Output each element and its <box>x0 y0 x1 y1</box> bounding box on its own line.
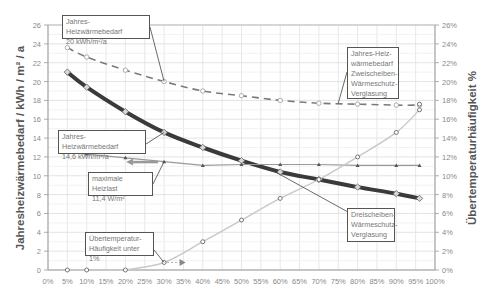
leader-line <box>153 162 164 184</box>
y2-tick-label: 18% <box>442 96 457 105</box>
x-tick-label: 40% <box>195 277 210 286</box>
annotation-line: 14,6 kWh/m²/a <box>62 152 142 162</box>
x-tick-label: 60% <box>273 277 288 286</box>
y-tick-label: 6 <box>37 209 41 218</box>
y-tick-label: 8 <box>37 191 41 200</box>
y2-tick-label: 14% <box>442 134 457 143</box>
x-tick-label: 35% <box>176 277 191 286</box>
annotation-line: Häufigkeit unter 1% <box>89 244 150 264</box>
y2-tick-label: 6% <box>442 209 453 218</box>
x-tick-label: 5% <box>62 277 73 286</box>
data-point-marker <box>201 89 205 93</box>
annotation-line: Übertemperatur- <box>89 234 150 244</box>
x-tick-labels: 0%5%10%15%20%25%30%35%40%45%50%55%60%65%… <box>43 277 445 286</box>
data-point-marker <box>201 240 205 244</box>
leader-line <box>338 72 347 103</box>
data-point-marker <box>317 178 321 182</box>
y2-tick-label: 0% <box>442 266 453 275</box>
y-tick-label: 4 <box>37 228 41 237</box>
y2-tick-label: 26% <box>442 21 457 30</box>
data-point-marker <box>394 103 398 107</box>
data-point-marker <box>418 102 422 106</box>
annotation-double-glazing: Jahres-Heiz- wärmebedarf Zweischeiben- W… <box>347 47 399 99</box>
data-point-marker <box>418 108 422 112</box>
y2-tick-labels: 0%2%4%6%8%10%12%14%16%18%20%22%24%26% <box>442 21 457 275</box>
y-tick-label: 0 <box>37 266 41 275</box>
annotation-line: Verglasung <box>351 89 395 99</box>
data-point-marker <box>123 68 127 72</box>
y-tick-label: 24 <box>33 40 41 49</box>
x-tick-label: 95% <box>408 277 423 286</box>
y-tick-label: 12 <box>33 153 41 162</box>
y-tick-label: 14 <box>33 134 41 143</box>
x-tick-label: 90% <box>389 277 404 286</box>
annotation-line: Jahres-Heizwärmebedarf <box>66 17 146 37</box>
y-tick-label: 20 <box>33 78 41 87</box>
x-tick-label: 70% <box>311 277 326 286</box>
y-tick-label: 18 <box>33 96 41 105</box>
data-point-marker <box>278 98 282 102</box>
y-tick-labels: 02468101214161820222426 <box>33 21 41 275</box>
x-tick-label: 50% <box>234 277 249 286</box>
data-point-marker <box>240 218 244 222</box>
annotation-line: Dreischeiben- <box>351 210 391 220</box>
x-tick-label: 85% <box>369 277 384 286</box>
annotation-line: Wärmeschutz- <box>351 220 391 230</box>
y-tick-label: 2 <box>37 247 41 256</box>
y2-tick-label: 10% <box>442 172 457 181</box>
data-point-marker <box>123 268 127 272</box>
y-tick-label: 10 <box>33 172 41 181</box>
y2-tick-label: 12% <box>442 153 457 162</box>
data-point-marker <box>85 55 89 59</box>
y2-tick-label: 4% <box>442 228 453 237</box>
data-point-marker <box>85 268 89 272</box>
data-point-marker <box>65 268 69 272</box>
data-point-marker <box>355 102 359 106</box>
y2-tick-label: 16% <box>442 115 457 124</box>
x-tick-label: 75% <box>331 277 346 286</box>
y-tick-label: 22 <box>33 59 41 68</box>
annotation-14-6-kwh: Jahres-Heizwärmebedarf 14,6 kWh/m²/a <box>58 130 146 154</box>
annotation-line: 20 kWh/m²/a <box>66 37 146 47</box>
x-tick-label: 80% <box>350 277 365 286</box>
annotation-line: 11,4 W/m² <box>92 194 149 204</box>
data-point-marker <box>394 130 398 134</box>
annotation-max-heating-load: maximale Heizlast 11,4 W/m² <box>88 172 153 196</box>
data-point-marker <box>317 101 321 105</box>
y2-axis-title: Übertemperaturhäufigkeit % <box>466 71 478 225</box>
x-tick-label: 45% <box>215 277 230 286</box>
annotation-line: Jahres-Heiz- <box>351 49 395 59</box>
y2-tick-label: 20% <box>442 78 457 87</box>
leader-line <box>150 27 164 82</box>
data-point-marker <box>278 196 282 200</box>
x-tick-label: 0% <box>43 277 54 286</box>
annotation-line: Jahres-Heizwärmebedarf <box>62 132 142 152</box>
x-tick-label: 20% <box>118 277 133 286</box>
y-tick-label: 26 <box>33 21 41 30</box>
y-axis-title: Jahresheizwärmebedarf / kWh / m² / a <box>14 45 26 250</box>
x-tick-label: 25% <box>137 277 152 286</box>
data-point-marker <box>239 93 243 97</box>
arrow-right-icon <box>180 259 186 266</box>
x-tick-label: 30% <box>157 277 172 286</box>
annotation-20-kwh: Jahres-Heizwärmebedarf 20 kWh/m²/a <box>62 15 150 39</box>
y2-tick-label: 24% <box>442 40 457 49</box>
annotation-line: wärmebedarf <box>351 59 395 69</box>
y2-tick-label: 2% <box>442 247 453 256</box>
data-point-marker <box>356 155 360 159</box>
x-tick-label: 15% <box>99 277 114 286</box>
annotation-triple-glazing: Dreischeiben- Wärmeschutz- Verglasung <box>347 208 395 242</box>
annotation-line: Zweischeiben- <box>351 69 395 79</box>
x-tick-label: 55% <box>253 277 268 286</box>
x-tick-label: 65% <box>292 277 307 286</box>
y2-tick-label: 22% <box>442 59 457 68</box>
annotation-line: Verglasung <box>351 230 391 240</box>
annotation-line: maximale Heizlast <box>92 174 149 194</box>
y2-tick-label: 8% <box>442 191 453 200</box>
annotation-overheating: Übertemperatur- Häufigkeit unter 1% <box>85 232 154 256</box>
y-tick-label: 16 <box>33 115 41 124</box>
x-tick-label: 100% <box>425 277 445 286</box>
x-tick-label: 10% <box>79 277 94 286</box>
annotation-line: Wärmeschutz- <box>351 79 395 89</box>
